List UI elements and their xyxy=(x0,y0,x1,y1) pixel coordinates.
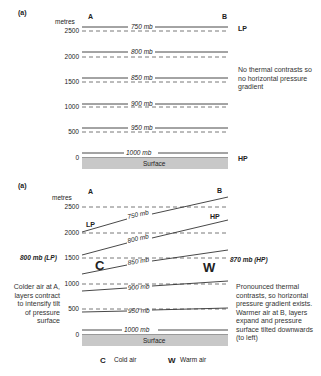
bottom-right-note: Pronounced thermal contrasts, so horizon… xyxy=(236,283,318,343)
bottom-hp-label: HP xyxy=(210,213,220,220)
top-isobar-800: 800 mb xyxy=(131,48,153,55)
bottom-isobar-750: 750 mb xyxy=(127,208,150,220)
top-hp-label: HP xyxy=(238,155,248,162)
top-height-2500: 2500 xyxy=(65,27,80,34)
bottom-height-1500: 1500 xyxy=(65,254,80,261)
legend-warm-label: Warm air xyxy=(180,356,207,363)
cold-air-symbol: C xyxy=(95,258,105,273)
legend-cold-label: Cold air xyxy=(114,356,137,363)
bottom-height-2000: 2000 xyxy=(65,229,80,236)
top-isobars xyxy=(82,27,228,153)
bottom-isobar-950: 950 mb xyxy=(128,307,150,314)
top-isobar-1000: 1000 mb xyxy=(126,149,152,156)
top-isobar-750: 750 mb xyxy=(131,23,153,30)
legend-cold-symbol: C xyxy=(100,356,106,365)
top-isobar-900: 900 mb xyxy=(131,100,153,107)
right-pressure-label: 870 mb (HP) xyxy=(230,256,268,264)
top-note: No thermal contrasts so no horizontal pr… xyxy=(238,66,316,92)
top-isobar-950: 950 mb xyxy=(131,124,153,131)
top-height-1000: 1000 xyxy=(65,103,80,110)
legend: C Cold air W Warm air xyxy=(100,356,207,365)
bottom-units-label: metres xyxy=(52,194,73,201)
bottom-height-0: 0 xyxy=(75,331,79,338)
top-surface-label: Surface xyxy=(143,160,166,167)
bottom-surface-label: Surface xyxy=(143,337,166,344)
bottom-isobar-850: 850 mb xyxy=(127,256,150,266)
top-panel: (a) metres A B 2500 2000 1500 1000 500 0 xyxy=(18,9,248,169)
top-units-label: metres xyxy=(55,18,76,25)
legend-warm-symbol: W xyxy=(168,356,176,365)
bottom-height-2500: 2500 xyxy=(65,203,80,210)
bottom-point-b: B xyxy=(217,187,222,194)
left-pressure-label: 800 mb (LP) xyxy=(20,254,57,262)
bottom-point-a: A xyxy=(88,188,93,195)
bottom-height-500: 500 xyxy=(68,305,79,312)
top-isobar-850: 850 mb xyxy=(131,74,153,81)
bottom-panel-label: (a) xyxy=(18,182,27,190)
bottom-isobar-1000: 1000 mb xyxy=(124,326,150,333)
top-height-500: 500 xyxy=(68,128,79,135)
top-lp-label: LP xyxy=(238,25,247,32)
bottom-left-note: Colder air at A, layers contract to inte… xyxy=(10,283,60,326)
bottom-height-1000: 1000 xyxy=(65,280,80,287)
top-point-a: A xyxy=(88,13,93,20)
top-height-1500: 1500 xyxy=(65,78,80,85)
top-panel-label: (a) xyxy=(18,9,27,17)
bottom-isobar-800: 800 mb xyxy=(127,232,150,244)
bottom-isobar-900: 900 mb xyxy=(128,282,150,291)
warm-air-symbol: W xyxy=(203,260,216,275)
top-height-dashes xyxy=(82,31,228,132)
top-height-0: 0 xyxy=(75,154,79,161)
bottom-lp-label: LP xyxy=(86,221,95,228)
top-point-b: B xyxy=(222,13,227,20)
top-height-2000: 2000 xyxy=(65,53,80,60)
